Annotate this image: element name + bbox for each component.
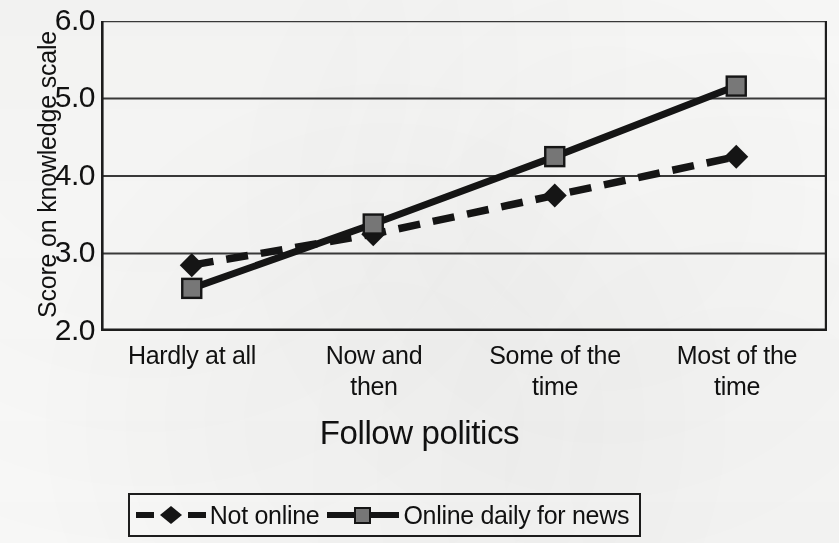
chart-legend: Not online Online daily for news xyxy=(128,493,641,537)
x-tick-line-1: Now and xyxy=(283,340,465,371)
x-axis-title: Follow politics xyxy=(0,414,839,452)
plot-canvas xyxy=(101,21,827,331)
y-tick-label-2: 2.0 xyxy=(15,315,95,345)
data-point-marker xyxy=(727,77,746,96)
data-point-marker xyxy=(364,215,383,234)
y-tick-label-3: 3.0 xyxy=(15,237,95,267)
series-online-daily-for-news xyxy=(182,77,746,298)
legend-key-solid-square-icon xyxy=(325,502,401,528)
legend-key-dashed-diamond-icon xyxy=(134,502,208,528)
y-tick-label-4: 4.0 xyxy=(15,160,95,190)
y-tick-label-6: 6.0 xyxy=(15,5,95,35)
legend-label-not-online: Not online xyxy=(208,501,326,530)
x-tick-line-1: Most of the xyxy=(646,340,828,371)
x-tick-line-2: time xyxy=(646,371,828,402)
x-tick-label-now-and-then: Now and then xyxy=(283,340,465,402)
series-line-0 xyxy=(192,157,737,266)
data-point-marker xyxy=(724,145,748,169)
series-not-online xyxy=(180,145,749,278)
legend-item-not-online: Not online xyxy=(134,501,326,530)
x-tick-line-2: then xyxy=(283,371,465,402)
plot-area xyxy=(101,21,827,331)
x-tick-label-most-of-the-time: Most of the time xyxy=(646,340,828,402)
chart-figure: Score on knowledge scale 6.0 5.0 4.0 3.0… xyxy=(0,0,839,543)
x-tick-line-1: Hardly at all xyxy=(101,340,283,371)
data-point-marker xyxy=(543,183,567,207)
data-point-marker xyxy=(180,253,204,277)
data-point-marker xyxy=(182,279,201,298)
y-tick-label-5: 5.0 xyxy=(15,82,95,112)
x-tick-line-1: Some of the xyxy=(464,340,646,371)
x-tick-line-2: time xyxy=(464,371,646,402)
x-tick-label-some-of-the-time: Some of the time xyxy=(464,340,646,402)
series-line-1 xyxy=(192,86,737,288)
legend-label-online-daily-for-news: Online daily for news xyxy=(401,501,635,530)
x-tick-label-hardly-at-all: Hardly at all xyxy=(101,340,283,371)
legend-item-online-daily-for-news: Online daily for news xyxy=(325,501,635,530)
data-point-marker xyxy=(545,147,564,166)
